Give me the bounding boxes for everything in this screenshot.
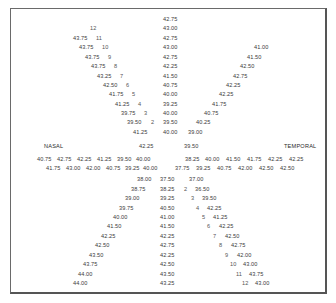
temporal-value: 40.00 [205,157,220,163]
nasal-value: 43.00 [66,166,81,172]
diagonal-value: 41.75 [212,102,227,108]
diagonal-value: 42.25 [226,83,241,89]
temporal-label: TEMPORAL [284,144,316,150]
diagonal-value: 42.75 [233,74,248,80]
center-bottom-value: 39.25 [160,196,175,202]
diagonal-value: 39.75 [121,111,136,117]
nasal-label: NASAL [44,144,63,150]
center-top-value: 40.00 [163,111,178,117]
center-top-value: 42.75 [163,17,178,23]
center-top-value: 40.75 [163,83,178,89]
meridian-index: 2 [151,120,154,126]
nasal-value: 39.25 [125,166,140,172]
diagonal-value: 36.50 [195,187,210,193]
meridian-index: 9 [225,253,228,259]
nasal-value: 40.75 [106,166,121,172]
meridian-index: 8 [219,243,222,249]
diagonal-value: 38.75 [131,187,146,193]
center-bottom-value: 41.00 [160,215,175,221]
diagonal-value: 42.75 [231,243,246,249]
diagonal-value: 39.50 [202,196,217,202]
meridian-index: 7 [213,234,216,240]
center-bottom-value: 37.50 [160,177,175,183]
meridian-index: 12 [242,281,248,287]
center-bottom-value: 42.50 [160,262,175,268]
meridian-index: 10 [230,262,236,268]
diagonal-value: 40.25 [196,120,211,126]
temporal-value: 42.25 [289,157,304,163]
diagonal-value: 41.00 [254,45,269,51]
meridian-index: 8 [114,64,117,70]
diagonal-value: 43.00 [255,281,270,287]
diagonal-value: 43.75 [79,45,94,51]
meridian-index: 5 [132,92,135,98]
nasal-value: 41.75 [46,166,61,172]
center-left-value: 42.25 [139,144,154,150]
temporal-value: 39.25 [196,166,211,172]
meridian-index: 9 [108,55,111,61]
meridian-index: 4 [138,102,141,108]
diagonal-value: 41.25 [133,130,148,136]
temporal-value: 42.25 [268,157,283,163]
meridian-index: 2 [184,187,187,193]
diagonal-value: 42.25 [219,224,234,230]
center-top-value: 40.00 [163,130,178,136]
diagonal-value: 43.00 [243,262,258,268]
diagonal-value: 40.75 [204,111,219,117]
temporal-value: 42.50 [280,166,295,172]
temporal-value: 42.00 [238,166,253,172]
meridian-index: 3 [144,111,147,117]
diagonal-value: 41.25 [115,102,130,108]
temporal-value: 40.75 [217,166,232,172]
nasal-value: 40.00 [143,166,158,172]
diagonal-value: 39.00 [188,130,203,136]
nasal-value: 40.75 [37,157,52,163]
center-top-value: 41.50 [163,74,178,80]
diagonal-value: 41.50 [107,224,122,230]
nasal-value: 39.50 [117,157,132,163]
center-top-value: 39.50 [163,120,178,126]
nasal-value: 40.00 [136,157,151,163]
nasal-value: 42.25 [77,157,92,163]
diagonal-value: 39.50 [127,120,142,126]
meridian-index: 5 [202,215,205,221]
diagonal-value: 43.25 [97,74,112,80]
center-top-value: 39.25 [163,102,178,108]
center-bottom-value: 42.25 [160,253,175,259]
meridian-index: 4 [196,206,199,212]
diagonal-value: 43.75 [83,262,98,268]
diagonal-value: 44.00 [73,281,88,287]
diagonal-value: 42.50 [103,83,118,89]
diagonal-value: 41.50 [247,55,262,61]
diagonal-value: 42.25 [101,234,116,240]
diagonal-value: 42.00 [237,253,252,259]
temporal-value: 37.75 [175,166,190,172]
diagonal-value: 43.75 [85,55,100,61]
meridian-index: 12 [90,26,96,32]
center-bottom-value: 40.50 [160,206,175,212]
meridian-index: 3 [191,196,194,202]
center-top-value: 42.75 [163,36,178,42]
center-bottom-value: 42.25 [160,234,175,240]
temporal-value: 41.50 [226,157,241,163]
center-bottom-value: 43.50 [160,272,175,278]
meridian-index: 6 [207,224,210,230]
center-right-value: 39.50 [184,144,199,150]
diagonal-value: 41.75 [109,92,124,98]
center-bottom-value: 42.75 [160,243,175,249]
temporal-value: 41.75 [247,157,262,163]
diagonal-value: 39.75 [119,206,134,212]
center-bottom-value: 38.25 [160,187,175,193]
diagonal-value: 42.50 [240,64,255,70]
nasal-value: 41.25 [97,157,112,163]
temporal-value: 42.50 [259,166,274,172]
diagonal-value: 37.00 [189,177,204,183]
nasal-value: 42.75 [57,157,72,163]
diagonal-value: 39.00 [125,196,140,202]
center-top-value: 43.00 [163,26,178,32]
diagonal-value: 42.50 [95,243,110,249]
diagonal-value: 43.75 [91,64,106,70]
temporal-value: 38.25 [185,157,200,163]
meridian-index: 11 [96,36,102,42]
meridian-index: 10 [102,45,108,51]
